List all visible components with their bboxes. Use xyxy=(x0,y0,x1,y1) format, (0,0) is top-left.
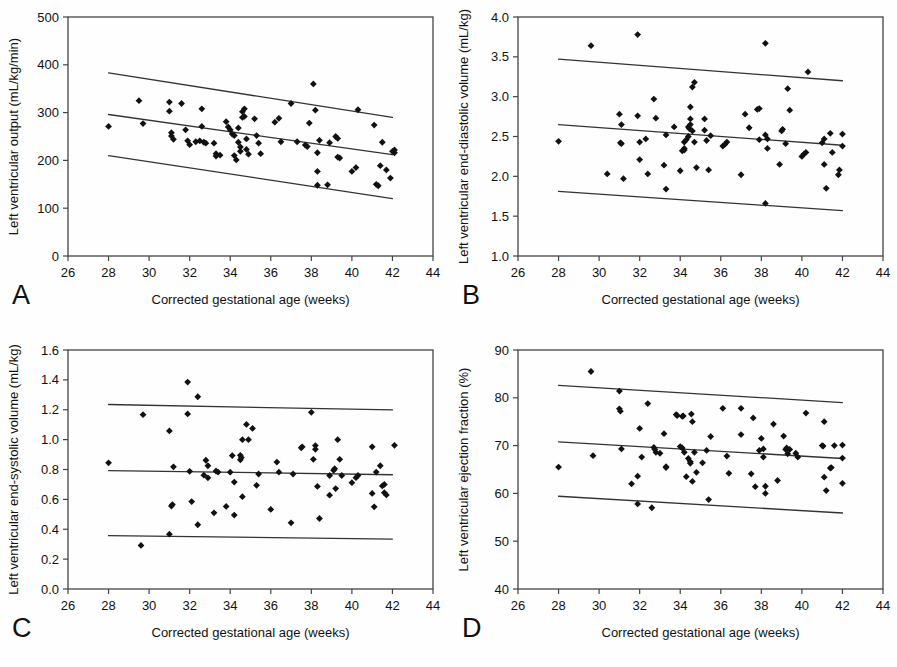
y-tick-label: 0.6 xyxy=(41,492,59,507)
data-point xyxy=(555,464,562,471)
panel-c: 262830323436384042440.00.20.40.60.81.01.… xyxy=(0,333,447,667)
panel-letter: D xyxy=(462,613,482,643)
y-tick-label: 100 xyxy=(37,201,59,216)
data-point xyxy=(636,156,643,163)
data-point xyxy=(628,480,635,487)
data-point xyxy=(273,459,280,466)
upper-confidence-band xyxy=(109,405,393,410)
panel-d: 26283032343638404244405060708090Left ven… xyxy=(450,333,897,667)
x-tick-label: 38 xyxy=(754,265,768,280)
data-point xyxy=(255,471,262,478)
x-tick-label: 26 xyxy=(61,598,75,613)
x-tick-label: 42 xyxy=(385,598,399,613)
x-tick-label: 42 xyxy=(835,265,849,280)
lower-confidence-band xyxy=(109,156,393,199)
x-tick-label: 36 xyxy=(714,598,728,613)
data-point xyxy=(693,164,700,171)
data-point xyxy=(638,454,645,461)
scatter-plot-a: 262830323436384042440100200300400500Left… xyxy=(0,0,447,334)
data-point xyxy=(231,512,238,519)
data-point xyxy=(166,428,173,435)
data-point xyxy=(683,473,690,480)
data-point xyxy=(644,400,651,407)
data-points xyxy=(555,31,846,207)
x-tick-label: 42 xyxy=(385,265,399,280)
data-point xyxy=(379,139,386,146)
data-point xyxy=(776,161,783,168)
x-tick-label: 36 xyxy=(714,265,728,280)
data-point xyxy=(648,504,655,511)
y-tick-label: 0.0 xyxy=(41,582,59,597)
data-point xyxy=(831,442,838,449)
x-tick-label: 38 xyxy=(754,598,768,613)
y-tick-label: 2.5 xyxy=(491,129,509,144)
data-point xyxy=(231,479,238,486)
data-point xyxy=(308,409,315,416)
data-point xyxy=(243,421,250,428)
data-point xyxy=(316,137,323,144)
x-tick-label: 34 xyxy=(223,265,237,280)
data-point xyxy=(650,96,657,103)
data-point xyxy=(205,462,212,469)
data-point xyxy=(140,411,147,418)
data-point xyxy=(821,161,828,168)
x-axis-title: Corrected gestational age (weeks) xyxy=(602,625,800,640)
y-tick-label: 70 xyxy=(495,438,509,453)
data-point xyxy=(184,379,191,386)
y-tick-label: 4.0 xyxy=(491,10,509,25)
data-point xyxy=(140,120,147,127)
x-tick-label: 44 xyxy=(426,598,440,613)
scatter-plot-c: 262830323436384042440.00.20.40.60.81.01.… xyxy=(0,333,447,667)
data-point xyxy=(188,498,195,505)
data-point xyxy=(371,503,378,510)
data-point xyxy=(701,116,708,123)
x-tick-label: 32 xyxy=(182,598,196,613)
data-point xyxy=(377,462,384,469)
data-point xyxy=(184,411,191,418)
data-point xyxy=(290,471,297,478)
y-tick-label: 200 xyxy=(37,153,59,168)
data-point xyxy=(310,81,317,88)
regression-line xyxy=(109,115,393,155)
data-point xyxy=(762,490,769,497)
y-tick-label: 1.5 xyxy=(491,209,509,224)
x-tick-label: 40 xyxy=(345,265,359,280)
y-tick-label: 300 xyxy=(37,105,59,120)
upper-confidence-band xyxy=(559,385,843,402)
data-point xyxy=(636,425,643,432)
data-point xyxy=(687,104,694,111)
y-tick-label: 0.2 xyxy=(41,552,59,567)
data-point xyxy=(255,140,262,147)
data-point xyxy=(762,40,769,47)
data-point xyxy=(618,121,625,128)
data-point xyxy=(620,175,627,182)
data-point xyxy=(707,433,714,440)
regression-line xyxy=(559,125,843,146)
data-point xyxy=(166,99,173,106)
upper-confidence-band xyxy=(109,73,393,117)
panel-a: 262830323436384042440100200300400500Left… xyxy=(0,0,447,334)
data-point xyxy=(223,503,230,510)
data-point xyxy=(705,496,712,503)
data-point xyxy=(725,470,732,477)
y-tick-label: 2.0 xyxy=(491,169,509,184)
data-point xyxy=(661,162,668,169)
data-point xyxy=(634,31,641,38)
panel-letter: A xyxy=(12,280,30,310)
data-point xyxy=(324,181,331,188)
data-point xyxy=(689,418,696,425)
data-point xyxy=(166,108,173,115)
x-tick-label: 32 xyxy=(632,598,646,613)
x-tick-label: 28 xyxy=(551,598,565,613)
data-point xyxy=(211,509,218,516)
x-axis-title: Corrected gestational age (weeks) xyxy=(152,625,350,640)
data-point xyxy=(687,116,694,123)
y-axis-title: Left ventricular end-diastolic volume (m… xyxy=(456,9,471,264)
data-point xyxy=(652,115,659,122)
data-point xyxy=(253,482,260,489)
plot-frame xyxy=(518,17,883,256)
scatter-plot-d: 26283032343638404244405060708090Left ven… xyxy=(450,333,897,667)
data-point xyxy=(275,469,282,476)
x-tick-label: 30 xyxy=(592,265,606,280)
data-point xyxy=(764,145,771,152)
